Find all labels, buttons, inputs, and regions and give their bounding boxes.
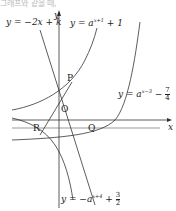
- point-Q: Q: [88, 123, 95, 133]
- label-curve2: y = ax−3 − 74: [118, 87, 170, 102]
- curve-a-x-plus-1: [12, 28, 97, 110]
- point-P: P: [67, 73, 73, 83]
- graph-canvas: [0, 0, 176, 211]
- label-curve3: y = −ax+4 + 32: [61, 192, 120, 207]
- curve-a-x-minus-3: [12, 22, 140, 140]
- label-line: y = −2x + k: [6, 17, 61, 27]
- x-axis-label: x: [168, 122, 173, 132]
- label-curve1: y = ax+1 + 1: [70, 17, 123, 28]
- point-R: R: [33, 123, 40, 133]
- origin-label: O: [61, 104, 68, 114]
